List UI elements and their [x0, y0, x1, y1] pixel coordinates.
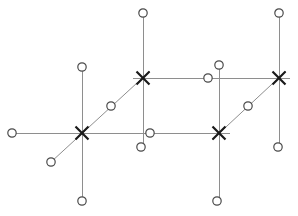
circle-below-lower-mid-cross[interactable]	[213, 197, 221, 205]
circle-top-right[interactable]	[275, 9, 283, 17]
circle-above-left-cross[interactable]	[78, 63, 86, 71]
circle-mid-horizontal[interactable]	[146, 129, 154, 137]
circle-below-left-cross[interactable]	[78, 197, 86, 205]
diagram-canvas	[0, 0, 298, 216]
circle-right-diagonal[interactable]	[244, 102, 252, 110]
circle-far-left[interactable]	[8, 129, 16, 137]
circle-top-mid[interactable]	[139, 9, 147, 17]
circle-upper-left-diagonal[interactable]	[107, 102, 115, 110]
circles-layer	[8, 9, 283, 205]
lattice-diagram	[0, 0, 298, 216]
circle-above-lower-mid-cross[interactable]	[215, 61, 223, 69]
circle-mid-vertical-end[interactable]	[137, 143, 145, 151]
circle-right-lower-end[interactable]	[274, 143, 282, 151]
edge-diagonal-left	[51, 71, 150, 162]
circle-upper-horizontal-mid[interactable]	[204, 74, 212, 82]
circle-lower-left-diagonal[interactable]	[47, 158, 55, 166]
